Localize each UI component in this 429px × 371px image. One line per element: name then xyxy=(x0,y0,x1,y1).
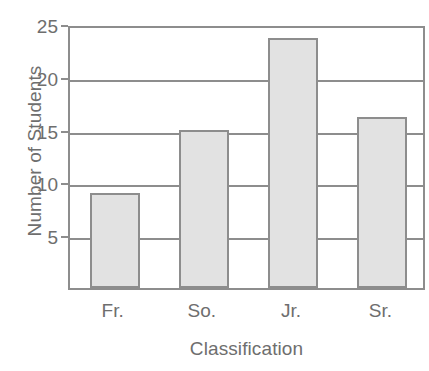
x-axis-title: Classification xyxy=(68,338,425,360)
gridline xyxy=(70,80,423,82)
bar-so xyxy=(179,130,229,288)
y-axis-tick-marks xyxy=(61,26,68,290)
x-axis-tick-label: Jr. xyxy=(281,300,301,322)
y-axis-tick-labels: 510152025 xyxy=(0,0,58,371)
bar-jr xyxy=(268,38,318,288)
bar-fr xyxy=(90,193,140,288)
y-axis-tick-label: 5 xyxy=(0,228,58,247)
x-axis-tick-label: Sr. xyxy=(369,300,392,322)
y-axis-tick-mark xyxy=(61,236,68,238)
bar-chart: Number of Students 510152025 Fr.So.Jr.Sr… xyxy=(0,0,429,371)
y-axis-tick-label: 20 xyxy=(0,69,58,88)
x-axis-tick-label: Fr. xyxy=(102,300,124,322)
y-axis-tick-mark xyxy=(61,25,68,27)
y-axis-tick-label: 10 xyxy=(0,175,58,194)
x-axis-tick-label: So. xyxy=(188,300,217,322)
y-axis-tick-label: 15 xyxy=(0,122,58,141)
y-axis-tick-mark xyxy=(61,131,68,133)
bar-sr xyxy=(357,117,407,288)
x-axis-tick-labels: Fr.So.Jr.Sr. xyxy=(68,300,425,326)
plot-area xyxy=(68,26,425,290)
y-axis-tick-mark xyxy=(61,78,68,80)
y-axis-tick-label: 25 xyxy=(0,17,58,36)
y-axis-tick-mark xyxy=(61,183,68,185)
